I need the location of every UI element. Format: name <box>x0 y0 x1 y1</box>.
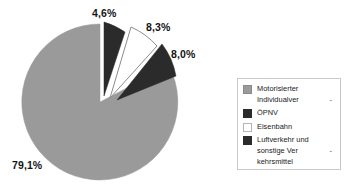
pie-chart: 4,6% 8,3% 8,0% 79,1% Motorisierter Indiv… <box>0 0 349 186</box>
legend-label-line2: Individualver <box>257 95 299 106</box>
pie-plot-area: 4,6% 8,3% 8,0% 79,1% <box>0 0 228 186</box>
legend-label-line1: ÖPNV <box>257 108 278 117</box>
legend-swatch-icon <box>243 109 252 118</box>
pie-data-label-eisenbahn: 8,3% <box>146 22 170 33</box>
legend-item-label: Motorisierter Individualver <box>257 84 299 105</box>
legend-swatch-icon <box>243 85 252 94</box>
chart-legend: Motorisierter Individualver - ÖPNV Eisen… <box>237 78 341 170</box>
pie-data-label-motorisierter: 79,1% <box>12 160 42 171</box>
legend-item-label: ÖPNV <box>257 108 278 119</box>
legend-label-line1: Luftverkehr und <box>257 135 309 144</box>
legend-item-label: Luftverkehr und sonstige Ver kehrsmittel <box>257 135 309 167</box>
legend-item-oepnv[interactable]: ÖPNV <box>243 108 336 119</box>
legend-hyphen: - <box>330 146 332 157</box>
legend-label-line1: Eisenbahn <box>257 122 292 131</box>
legend-label-line3: kehrsmittel <box>257 157 309 168</box>
legend-swatch-icon <box>243 136 252 145</box>
legend-swatch-icon <box>243 123 252 132</box>
legend-item-luftverkehr-sonstige[interactable]: Luftverkehr und sonstige Ver kehrsmittel… <box>243 135 336 167</box>
legend-item-label: Eisenbahn <box>257 122 292 133</box>
legend-label-line2: sonstige Ver <box>257 146 309 157</box>
legend-item-motorisierter-individualverkehr[interactable]: Motorisierter Individualver - <box>243 84 336 105</box>
legend-hyphen: - <box>330 95 332 106</box>
legend-label-line1: Motorisierter <box>257 84 298 93</box>
legend-item-eisenbahn[interactable]: Eisenbahn <box>243 122 336 133</box>
pie-data-label-oepnv: 8,0% <box>171 49 195 60</box>
pie-data-label-luftverkehr: 4,6% <box>92 8 116 19</box>
